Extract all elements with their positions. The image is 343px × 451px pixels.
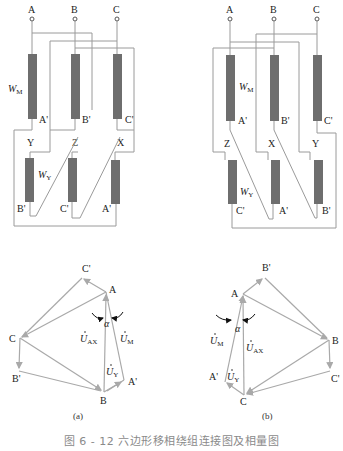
phasor-point-label: A' [128,376,137,387]
series-coil-c [314,160,323,204]
um-label: UM [120,333,134,346]
terminal-b-a [228,17,232,21]
phasor-point-label: B' [12,373,21,384]
series-coil-b [68,158,77,202]
alpha-label: α [235,323,241,334]
coil-end-label: B' [17,203,26,214]
terminal-label: B [71,4,78,15]
mid-label: X [268,138,276,149]
uy-label: UY [227,371,239,384]
mid-label: X [117,137,125,148]
coil-end-label: B' [281,115,290,126]
mid-label: Z [224,138,230,149]
terminal-label: B [270,4,277,15]
phasor-point-label: A' [209,371,218,382]
terminal-a-a [30,17,34,21]
coil-end-label: A' [39,114,48,125]
coil-end-label: C' [324,115,333,126]
wiring-diagram-a: A B C WM A' B' C' Y Z X [8,4,134,226]
terminal-a-c [115,17,119,21]
main-coil-b [71,54,80,119]
coil-end-label: C' [60,203,69,214]
uax-label: UAX [80,333,97,346]
series-coil-a [228,160,237,204]
series-coil-a [25,158,34,202]
terminal-b-c [315,17,319,21]
phasor-diagram-a: C' A C B' B A' α UAX UM UY [9,263,137,406]
terminal-label: C [313,4,320,15]
phasor-point-label: C' [331,373,340,384]
um-label: UM [210,335,224,348]
figure-caption: 图 6 - 12 六边形移相绕组连接图及相量图 [0,432,343,448]
phasor-point-label: B' [262,262,271,273]
phasor-point-label: A [231,288,239,299]
wm-label: WM [239,81,254,94]
phasor-point-label: B [100,395,107,406]
terminal-b-b [272,17,276,21]
terminal-label: A [226,4,234,15]
alpha-label: α [104,318,110,329]
coil-end-label: B' [322,205,331,216]
main-coil-a [28,54,37,119]
coil-end-label: C' [236,205,245,216]
uy-label: UY [106,366,118,379]
coil-end-label: A' [279,205,288,216]
subfigure-label-b: (b) [262,411,273,421]
wy-label: WY [240,186,253,199]
coil-end-label: B' [82,114,91,125]
wiring-diagram-b: A B C WM A' B' C' Z X Y WY C' A' B' [213,4,336,228]
phasor-point-label: C [9,333,16,344]
phasor-point-label: C' [82,263,91,274]
series-coil-b [271,160,280,204]
series-coil-c [111,160,120,204]
coil-end-label: C' [125,114,134,125]
main-coil-c [313,55,322,121]
terminal-label: C [113,4,120,15]
main-coil-b [270,55,279,121]
uax-label: UAX [246,342,263,355]
wm-label: WM [8,83,23,96]
phasor-point-label: B [332,335,339,346]
coil-end-label: A' [238,115,247,126]
coil-end-label: A' [102,203,111,214]
wy-label: WY [38,169,51,182]
mid-label: Y [312,138,319,149]
subfigure-label-a: (a) [73,411,83,421]
figure-canvas: A B C WM A' B' C' Y Z X [0,0,343,451]
phasor-diagram-b: B' A B C' C A' α UM UAX UY [209,262,340,407]
mid-label: Y [27,137,34,148]
phasor-point-label: A [109,284,117,295]
main-coil-a [226,55,235,121]
terminal-label: A [28,4,36,15]
main-coil-c [113,54,122,119]
terminal-a-b [73,17,77,21]
phasor-point-label: C [240,396,247,407]
